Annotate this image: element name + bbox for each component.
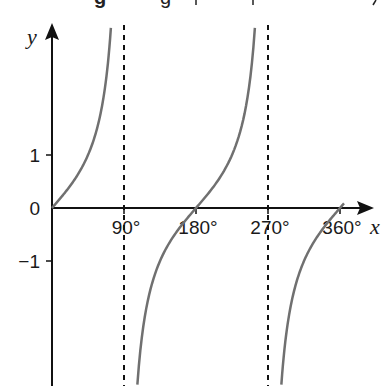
curves xyxy=(52,28,344,385)
svg-text:g: g xyxy=(160,0,171,8)
asymptote-lines xyxy=(124,25,268,386)
y-tick-label: −1 xyxy=(18,251,40,272)
tan-curve-branch xyxy=(52,28,111,208)
x-axis-label: x xyxy=(369,214,380,239)
cropped-heading-fragment: g g xyxy=(94,0,376,8)
svg-text:g: g xyxy=(94,0,106,8)
y-tick-label: 1 xyxy=(29,145,40,166)
x-tick-label: 90° xyxy=(112,217,141,238)
axes xyxy=(45,23,374,386)
tan-curve-branch xyxy=(137,28,255,385)
y-tick-label: 0 xyxy=(29,198,40,219)
y-axis-label: y xyxy=(25,24,37,49)
x-tick-label: 270° xyxy=(250,217,289,238)
tan-graph: g g 90°180°270°360°10−1 x y xyxy=(0,0,392,388)
